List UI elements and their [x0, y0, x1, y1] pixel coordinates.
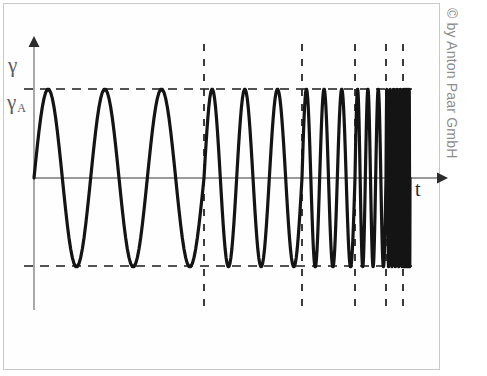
- y-axis-label: γ: [8, 53, 17, 78]
- y-axis-arrowhead: [29, 36, 40, 47]
- amplitude-label-symbol: γ: [7, 90, 16, 114]
- amplitude-label: γA: [7, 90, 25, 115]
- figure-root: γ γA t © by Anton Paar GmbH: [0, 0, 487, 376]
- copyright-notice: © by Anton Paar GmbH: [210, 8, 460, 28]
- x-axis-label: t: [415, 178, 421, 201]
- oscillation-chart: [0, 0, 487, 376]
- amplitude-label-subscript: A: [17, 101, 26, 115]
- x-axis-arrowhead: [437, 173, 448, 184]
